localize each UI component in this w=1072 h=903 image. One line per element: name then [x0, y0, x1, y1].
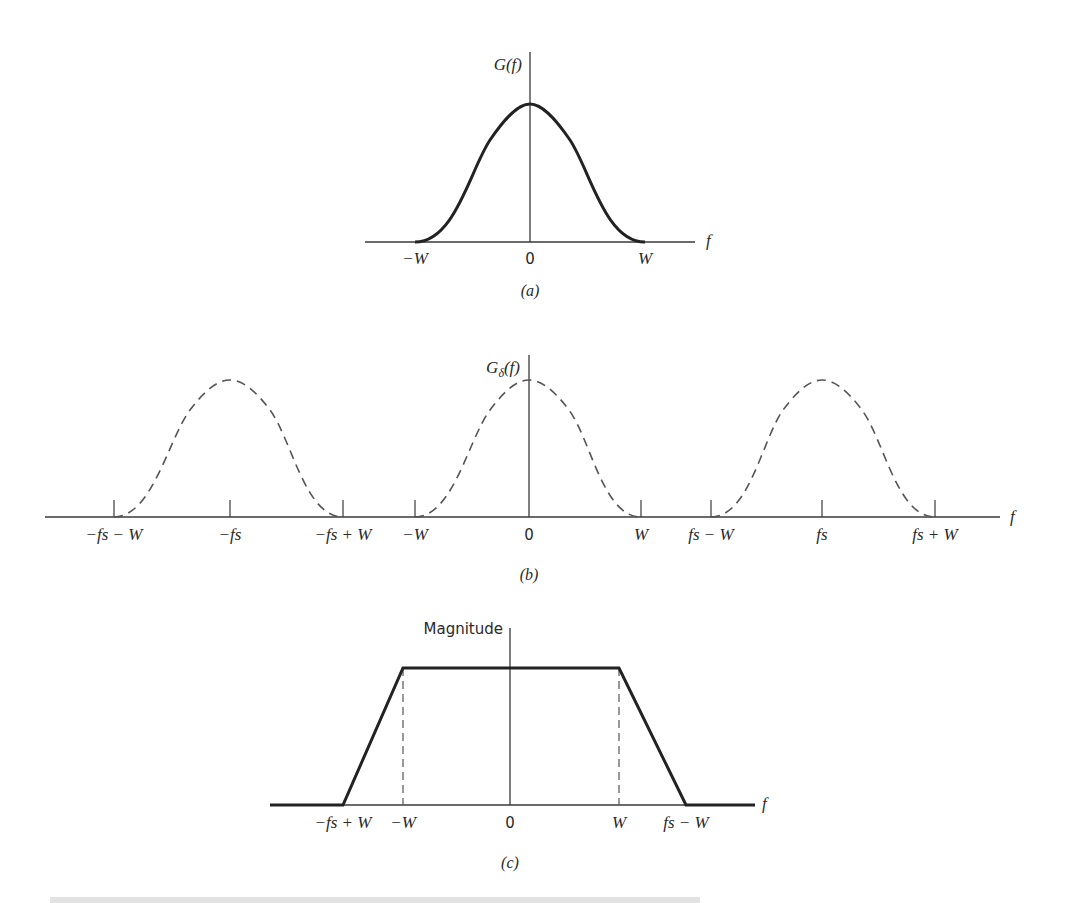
- panel-c-y-label: Magnitude: [424, 620, 503, 638]
- figure-caption-clipped: [50, 897, 700, 903]
- panel-c-filter-response: [270, 668, 755, 805]
- panel-b-ticks: [114, 500, 935, 517]
- panel-a-tick-neg-w: −W: [402, 249, 429, 268]
- panel-b-tick-w: W: [634, 525, 650, 544]
- panel-b-label: (b): [520, 566, 539, 584]
- panel-c-tick-w: W: [612, 813, 628, 832]
- panel-c-tick-neg-fs-plus-w: −fs + W: [315, 813, 374, 832]
- panel-c-tick-neg-w: −W: [390, 813, 417, 832]
- panel-b-tick-neg-fs-minus-w: −fs − W: [86, 525, 145, 544]
- panel-b-replica-zero: [415, 380, 641, 517]
- panel-c-tick-fs-minus-w: fs − W: [663, 813, 710, 832]
- panel-a-tick-w: W: [638, 249, 654, 268]
- panel-b-replica-neg-fs: [114, 380, 343, 517]
- panel-b-tick-fs: fs: [816, 525, 828, 544]
- panel-b-y-label: Gδ(f): [486, 358, 520, 380]
- panel-a-x-label: f: [706, 231, 713, 250]
- panel-b-replica-pos-fs: [711, 380, 935, 517]
- panel-a: G(f) f −W 0 W (a): [365, 52, 713, 300]
- panel-c-tick-zero: 0: [505, 814, 515, 832]
- panel-b-x-label: f: [1010, 507, 1017, 526]
- panel-c: Magnitude f −fs + W −W 0 W fs − W (c): [270, 620, 769, 872]
- panel-a-tick-zero: 0: [525, 250, 535, 268]
- panel-a-label: (a): [521, 282, 540, 300]
- panel-b-tick-zero: 0: [524, 526, 534, 544]
- panel-c-label: (c): [501, 854, 519, 872]
- sampling-spectra-figure: G(f) f −W 0 W (a) Gδ(f) f −fs − W −fs: [0, 0, 1072, 903]
- panel-b-tick-fs-minus-w: fs − W: [688, 525, 735, 544]
- panel-b-tick-neg-w: −W: [402, 525, 429, 544]
- panel-b-tick-fs-plus-w: fs + W: [912, 525, 959, 544]
- panel-b-tick-neg-fs: −fs: [219, 525, 242, 544]
- panel-c-x-label: f: [762, 794, 769, 813]
- panel-b: Gδ(f) f −fs − W −fs −fs + W −W 0 W fs − …: [45, 355, 1017, 584]
- panel-b-tick-neg-fs-plus-w: −fs + W: [315, 525, 374, 544]
- panel-a-y-label: G(f): [494, 55, 523, 74]
